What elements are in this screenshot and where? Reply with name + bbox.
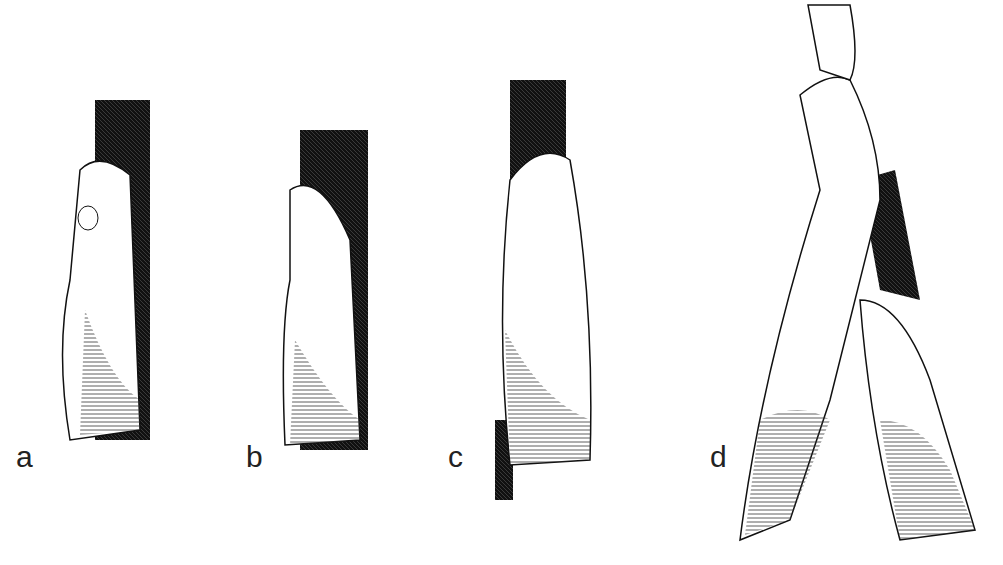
hand-jam-c [495, 80, 591, 500]
panel-label-a: a [16, 440, 33, 474]
illustration [0, 0, 1003, 565]
hand-jam-b [283, 130, 368, 450]
panel-label-b: b [246, 440, 263, 474]
panel-label-d: d [710, 440, 727, 474]
hand-jam-a [63, 100, 151, 440]
arms-d [740, 5, 975, 540]
panel-label-c: c [448, 440, 463, 474]
